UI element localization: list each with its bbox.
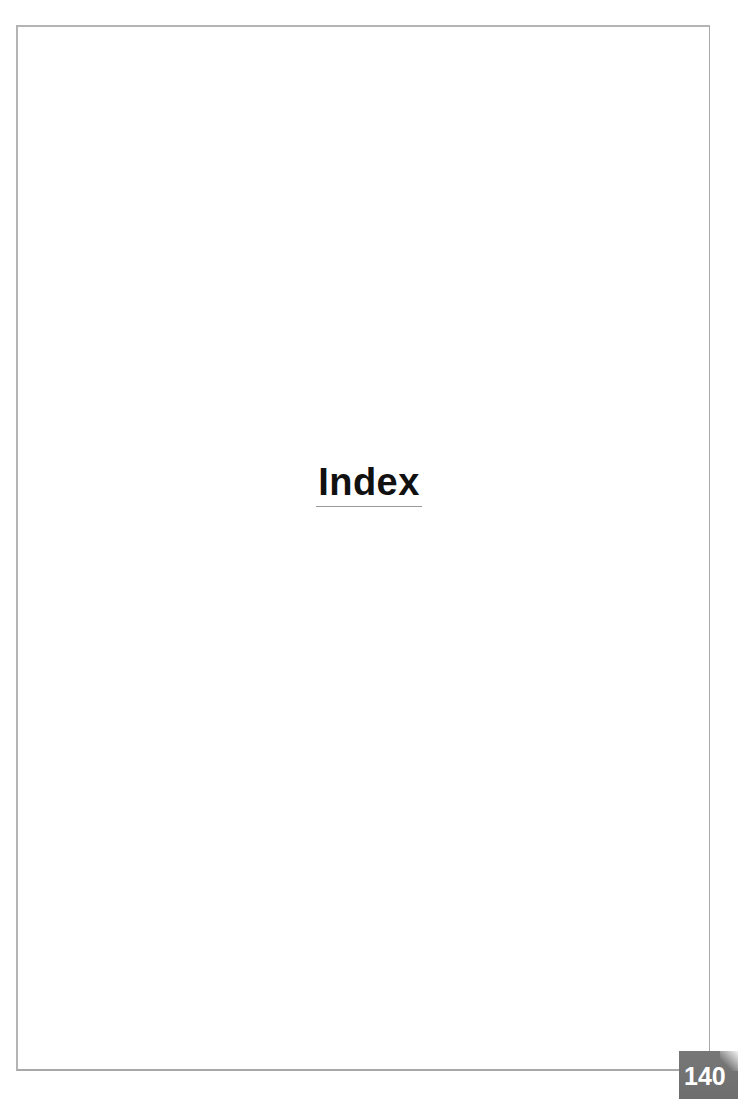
page-title: Index xyxy=(316,462,422,507)
page-number: 140 xyxy=(679,1061,738,1091)
title-container: Index xyxy=(0,462,738,507)
page-border-frame xyxy=(16,25,710,1071)
page-number-tab: 140 xyxy=(679,1051,738,1099)
